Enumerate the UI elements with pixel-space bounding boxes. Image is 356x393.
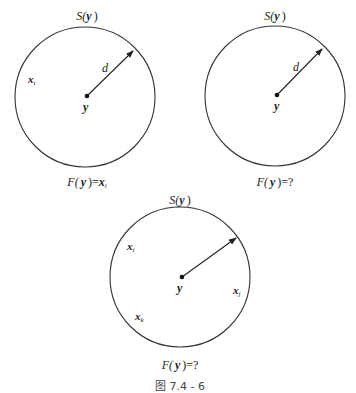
result-label: F(y)=? [161,358,199,372]
sphere-label: S(y) [169,193,190,207]
panel-2: d S(y) y F(y)=? [205,9,345,189]
panel-3: S(y) y xi xj xk F(y)=? [110,193,250,372]
panel-1: d S(y) y xi F(y)=xi [15,9,155,190]
radius-label: d [102,61,109,75]
radius-arrow [277,49,322,95]
sphere-label: S(y) [76,9,97,23]
sphere-label: S(y) [264,9,285,23]
figure-caption: 图 7.4 - 6 [155,380,205,393]
figure-canvas: d S(y) y xi F(y)=xi d S(y) y F(y)=? S(y)… [0,0,356,393]
center-point [180,275,185,280]
radius-label: d [293,60,300,74]
center-point [275,93,280,98]
point-label-xi: xi [126,240,135,254]
radius-arrow [182,238,236,277]
radius-arrow [87,51,133,96]
point-label-xj: xj [232,284,241,298]
center-label: y [272,99,280,113]
center-label: y [175,281,183,295]
center-point [85,94,90,99]
point-label-xi: xi [27,73,36,87]
result-label: F(y)=? [256,175,294,189]
point-label-xk: xk [134,310,145,324]
center-label: y [81,100,89,114]
result-label: F(y)=xi [66,175,106,190]
